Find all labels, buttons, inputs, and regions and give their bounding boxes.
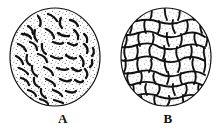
panel-b: B: [111, 0, 221, 136]
field-b-drawing: [119, 6, 213, 108]
panel-b-label: B: [111, 112, 221, 126]
field-of-view-a: [8, 6, 102, 108]
panel-a-label: A: [0, 112, 118, 126]
panel-a: A: [0, 0, 110, 136]
field-of-view-b: [119, 6, 213, 108]
figure-root: A: [0, 0, 221, 136]
field-a-drawing: [8, 6, 102, 108]
